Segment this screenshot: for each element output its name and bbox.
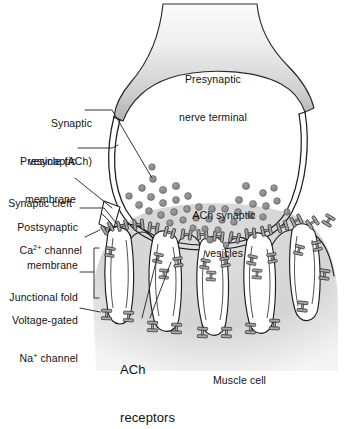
vesicle-dot	[126, 193, 133, 200]
vesicle-dot	[160, 200, 167, 207]
vesicle-dot	[274, 198, 281, 205]
vesicle-dot	[284, 209, 290, 215]
vesicle-dot	[149, 164, 155, 170]
label-na-channel: Voltage-gated Na+ channel	[6, 289, 78, 389]
label-ca-channel: Ca2+ channel	[6, 231, 82, 269]
label-presynaptic-nerve-terminal: Presynaptic nerve terminal	[158, 48, 268, 148]
vesicle-dot	[146, 208, 153, 215]
vesicle-dot	[158, 212, 165, 219]
vesicle-dot	[148, 194, 155, 201]
vesicle-dot	[167, 220, 174, 227]
vesicle-dot	[139, 185, 146, 192]
vesicle-dot	[136, 202, 143, 209]
vesicle-dot	[150, 176, 157, 183]
leader-ca-channel	[85, 230, 100, 237]
label-ach-receptors: ACh receptors	[120, 330, 200, 429]
vesicle-dot	[159, 186, 166, 193]
label-ach-synaptic-vesicles: ACh synaptic vesicles	[176, 184, 272, 284]
label-muscle-cell: Muscle cell	[213, 349, 303, 412]
leader-synaptic-vesicle	[85, 110, 152, 178]
